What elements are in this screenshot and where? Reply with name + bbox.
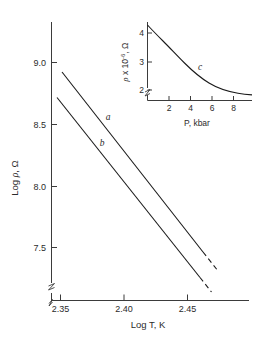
inset-y-ticklabel-0: 4 <box>139 28 144 38</box>
data-curve-c <box>148 25 253 95</box>
data-line-b-dashed <box>200 278 212 293</box>
inset-y-axis-break-icon <box>145 90 150 97</box>
main-x-axis-label: Log T, K <box>131 319 166 330</box>
main-y-ticklabel-1: 8.5 <box>33 120 46 130</box>
inset-y-axis-label: ρ x 10-6, Ω <box>120 43 131 83</box>
curve-label-c: c <box>198 62 203 72</box>
figure-container: 9.0 8.5 8.0 7.5 2.35 2.40 2.45 Log T, K … <box>0 0 266 337</box>
main-x-ticklabel-2: 2.45 <box>179 304 197 314</box>
curve-label-a: a <box>106 112 111 122</box>
curve-label-b: b <box>100 138 105 148</box>
inset-data-group <box>148 25 253 95</box>
main-data-group <box>57 72 219 292</box>
main-y-axis-label-prefix: Log <box>9 177 20 196</box>
inset-x-ticklabel-2: 6 <box>210 103 215 113</box>
inset-y-axis-label-unit: , Ω <box>120 43 130 54</box>
inset-y-axis-label-mult: x 10 <box>120 59 130 78</box>
main-y-axis-label-suffix: , Ω <box>9 160 20 172</box>
main-y-ticklabel-3: 7.5 <box>33 243 46 253</box>
inset-x-ticklabel-1: 4 <box>188 103 193 113</box>
data-line-b-solid <box>57 98 200 278</box>
inset-y-ticklabel-2: 2 <box>139 85 144 95</box>
inset-x-ticklabel-0: 2 <box>167 103 172 113</box>
main-x-ticklabel-0: 2.35 <box>52 304 70 314</box>
main-y-axis-break-icon <box>49 284 55 291</box>
main-y-axis-label: Log ρ, Ω <box>9 160 20 195</box>
data-line-a-solid <box>62 72 203 252</box>
inset-y-ticklabel-1: 3 <box>139 57 144 67</box>
main-axes-group <box>49 22 250 306</box>
main-y-ticklabel-0: 9.0 <box>33 58 46 68</box>
inset-x-ticklabel-3: 8 <box>231 103 236 113</box>
main-tick-labels: 9.0 8.5 8.0 7.5 2.35 2.40 2.45 <box>33 58 196 314</box>
inset-y-axis-label-group: ρ x 10-6, Ω <box>120 43 131 83</box>
main-x-ticklabel-1: 2.40 <box>115 304 133 314</box>
main-y-axis-label-group: Log ρ, Ω <box>9 160 20 195</box>
main-y-ticklabel-2: 8.0 <box>33 182 46 192</box>
data-line-a-dashed <box>203 252 219 272</box>
inset-x-axis-label: P, kbar <box>184 118 210 128</box>
chart-svg: 9.0 8.5 8.0 7.5 2.35 2.40 2.45 Log T, K … <box>0 0 266 337</box>
